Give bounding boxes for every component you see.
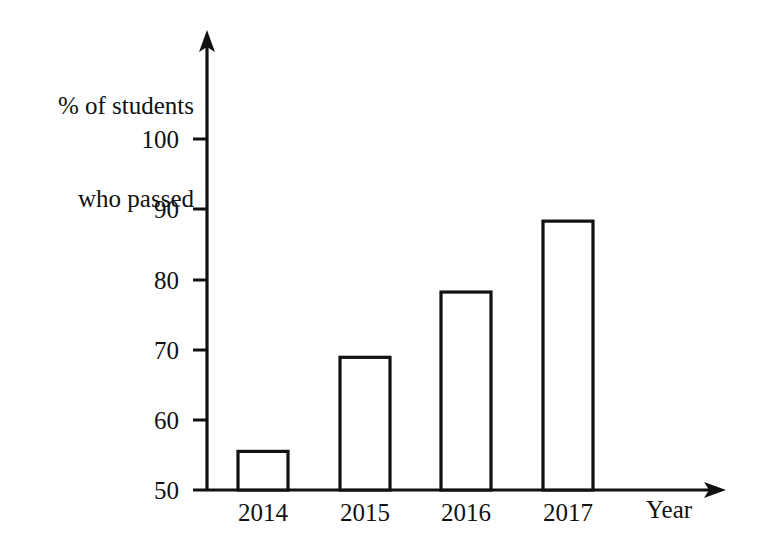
y-tick-label-50: 50 xyxy=(109,478,179,503)
y-tick-label-100: 100 xyxy=(109,127,179,152)
y-tick-label-80: 80 xyxy=(109,268,179,293)
bar-2014 xyxy=(238,451,288,490)
bar-2016 xyxy=(441,292,491,490)
bar-2015 xyxy=(340,357,390,490)
bar-2017 xyxy=(543,221,593,490)
y-tick-label-60: 60 xyxy=(109,408,179,433)
x-axis-title: Year xyxy=(646,494,692,525)
y-axis-title-line-1: % of students xyxy=(14,90,194,121)
x-category-label-2017: 2017 xyxy=(508,500,628,525)
bar-chart: % of students who passed Year 100 90 80 … xyxy=(0,0,762,553)
y-tick-label-70: 70 xyxy=(109,338,179,363)
y-tick-label-90: 90 xyxy=(109,197,179,222)
